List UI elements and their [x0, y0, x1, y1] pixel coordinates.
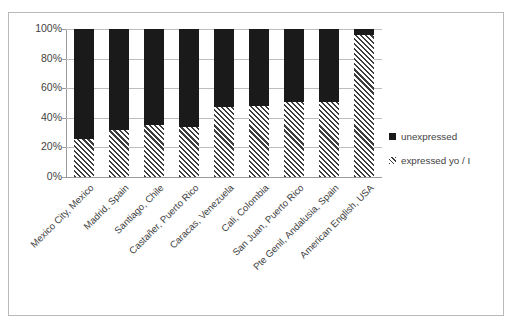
y-tick-60 — [62, 88, 66, 89]
y-axis-labels: 100% 80% 60% 40% 20% 0% — [10, 29, 62, 177]
bar-segment-expressed[interactable] — [109, 130, 129, 177]
bar-segment-expressed[interactable] — [284, 102, 304, 177]
y-tick-40 — [62, 118, 66, 119]
y-axis-tick-label: 0% — [10, 170, 62, 182]
bar-segment-unexpressed[interactable] — [109, 29, 129, 130]
bar-group[interactable] — [354, 29, 374, 177]
bar-group[interactable] — [214, 29, 234, 177]
bar-segment-expressed[interactable] — [249, 106, 269, 177]
solid-black-square-icon — [389, 133, 396, 140]
legend-item-expressed: expressed yo / I — [389, 156, 499, 166]
hatched-square-icon — [389, 157, 396, 164]
y-tick-100 — [62, 29, 66, 30]
y-axis-tick-label: 20% — [10, 140, 62, 152]
y-axis-tick-label: 100% — [10, 22, 62, 34]
bar-segment-expressed[interactable] — [144, 125, 164, 177]
bar-segment-expressed[interactable] — [179, 127, 199, 177]
y-axis-tick-label: 60% — [10, 81, 62, 93]
bar-segment-expressed[interactable] — [74, 139, 94, 177]
bar-segment-expressed[interactable] — [319, 102, 339, 177]
bar-segment-unexpressed[interactable] — [214, 29, 234, 107]
bar-segment-expressed[interactable] — [354, 35, 374, 177]
chart-legend: unexpressed expressed yo / I — [389, 132, 499, 180]
bar-group[interactable] — [319, 29, 339, 177]
bar-segment-unexpressed[interactable] — [74, 29, 94, 139]
bar-segment-expressed[interactable] — [214, 107, 234, 177]
bar-segment-unexpressed[interactable] — [249, 29, 269, 106]
x-axis-line — [66, 177, 382, 178]
bar-segment-unexpressed[interactable] — [179, 29, 199, 127]
y-axis-tick-label: 40% — [10, 111, 62, 123]
plot-area — [66, 29, 382, 177]
bar-group[interactable] — [284, 29, 304, 177]
y-tick-80 — [62, 59, 66, 60]
legend-label: expressed yo / I — [401, 156, 470, 166]
y-tick-0 — [62, 177, 66, 178]
bar-group[interactable] — [109, 29, 129, 177]
bar-group[interactable] — [144, 29, 164, 177]
bar-group[interactable] — [249, 29, 269, 177]
bar-segment-unexpressed[interactable] — [284, 29, 304, 102]
bar-group[interactable] — [179, 29, 199, 177]
y-tick-20 — [62, 147, 66, 148]
bar-segment-unexpressed[interactable] — [144, 29, 164, 125]
bar-group[interactable] — [74, 29, 94, 177]
y-axis-tick-label: 80% — [10, 52, 62, 64]
legend-label: unexpressed — [401, 132, 457, 142]
bar-segment-unexpressed[interactable] — [319, 29, 339, 102]
legend-item-unexpressed: unexpressed — [389, 132, 499, 142]
